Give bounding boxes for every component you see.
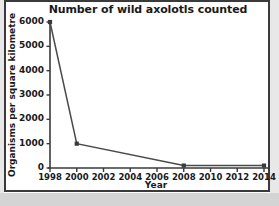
data-point-marker bbox=[48, 20, 52, 24]
y-tick-label: 0 bbox=[0, 162, 44, 172]
x-tick-label: 2014 bbox=[247, 172, 279, 182]
y-tick-label: 3000 bbox=[0, 89, 44, 99]
y-tick-label: 6000 bbox=[0, 16, 44, 26]
y-tick-label: 5000 bbox=[0, 40, 44, 50]
data-point-marker bbox=[262, 163, 266, 167]
y-tick-label: 4000 bbox=[0, 65, 44, 75]
data-point-marker bbox=[182, 163, 186, 167]
chart-page: Number of wild axolotls counted Organism… bbox=[0, 0, 279, 206]
y-tick-label: 2000 bbox=[0, 113, 44, 123]
data-line bbox=[50, 22, 264, 166]
data-point-marker bbox=[75, 142, 79, 146]
y-tick-label: 1000 bbox=[0, 138, 44, 148]
